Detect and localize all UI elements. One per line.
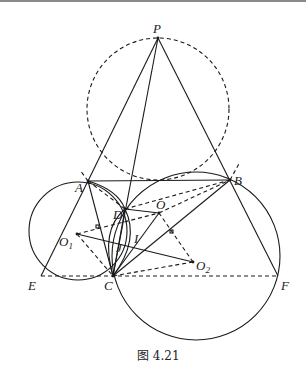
segment-pa: [88, 38, 158, 181]
dash-db: [125, 180, 230, 209]
segment-ae: [41, 181, 88, 276]
label-o: O: [156, 197, 166, 212]
label-e: E: [27, 278, 36, 293]
label-o2: O2: [196, 258, 210, 275]
label-f: F: [280, 278, 290, 293]
segment-pf: [158, 38, 278, 276]
right-angle-mark-1: [96, 225, 99, 228]
label-i: I: [133, 231, 139, 246]
figure-caption: 图 4.21: [137, 349, 180, 363]
geometry-diagram: P A B D O O1 O2 I J E C F 图 4.21: [0, 0, 306, 385]
segment-ab: [88, 180, 230, 181]
label-d: D: [112, 207, 123, 222]
dashed-circle-pab: [87, 38, 229, 180]
point-a: [87, 180, 90, 183]
point-b: [229, 179, 232, 182]
segment-o2c: [113, 262, 193, 276]
label-c: C: [104, 278, 113, 293]
label-p: P: [152, 21, 161, 36]
point-o2: [192, 261, 195, 264]
label-b: B: [234, 173, 242, 188]
point-d: [124, 208, 127, 211]
point-o1: [76, 233, 79, 236]
segment-do: [125, 209, 159, 213]
label-a: A: [74, 180, 83, 195]
point-o: [158, 212, 161, 215]
point-p: [157, 37, 160, 40]
label-o1: O1: [59, 234, 73, 251]
segment-ob: [159, 180, 230, 213]
point-c: [112, 275, 115, 278]
